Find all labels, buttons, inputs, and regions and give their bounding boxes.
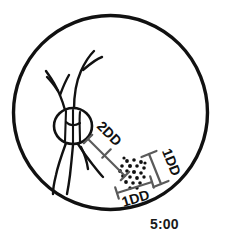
lesion-dot	[139, 160, 143, 164]
fundus-drawing-svg: 2DD 1DD 1DD	[0, 0, 229, 246]
disc-vessel-left	[65, 111, 66, 141]
lesion-dot	[125, 159, 129, 163]
fundus-boundary-circle	[14, 16, 208, 210]
lesion-dot	[128, 164, 132, 168]
lesion-dot	[124, 180, 128, 184]
lesion-dot	[120, 164, 124, 168]
lesion-dot	[132, 158, 136, 162]
lesion-dot	[132, 170, 136, 174]
lesion-dot	[139, 171, 143, 175]
lesion-dot	[131, 181, 135, 185]
fundus-diagram: 2DD 1DD 1DD 5:00	[0, 0, 229, 246]
lesion-dot	[142, 166, 146, 170]
lesion-dot	[128, 175, 132, 179]
lesion-dot	[122, 156, 125, 159]
lesion-dot	[143, 161, 146, 164]
lesion-dot	[135, 164, 139, 168]
lesion-dot	[142, 175, 145, 178]
lesion-dot	[135, 176, 139, 180]
clock-position-label: 5:00	[150, 216, 179, 232]
